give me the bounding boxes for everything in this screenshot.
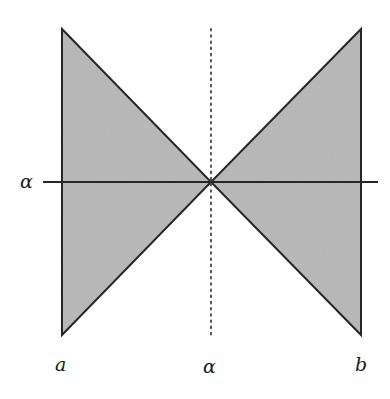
center-alpha-label: α [203, 357, 216, 376]
left-endpoint-label: a [55, 355, 66, 374]
figure-canvas: α a α b [0, 0, 390, 399]
bowtie-diagram-svg [0, 0, 390, 399]
right-endpoint-label: b [355, 355, 367, 374]
axis-alpha-label: α [20, 172, 33, 191]
